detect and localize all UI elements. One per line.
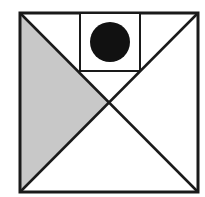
diagram-canvas	[0, 0, 205, 197]
black-circle	[90, 22, 130, 62]
